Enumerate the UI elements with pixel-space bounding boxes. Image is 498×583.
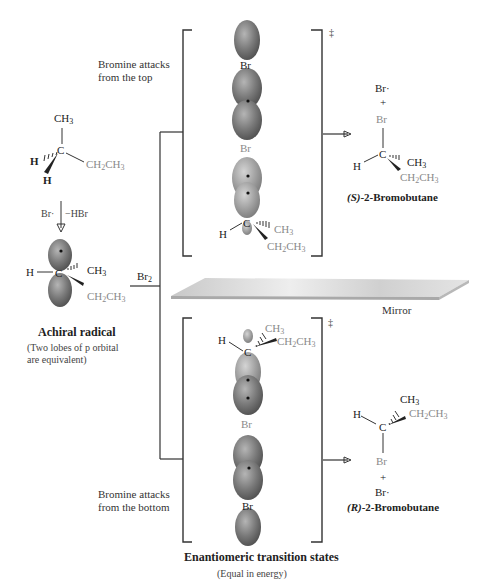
- bottom-product-plus: +: [380, 471, 386, 483]
- bottom-ts-h-label: H: [218, 334, 226, 346]
- bottom-ts-carbon-label: C: [244, 346, 251, 358]
- starting-ethyl-label: CH2CH3: [86, 158, 125, 170]
- top-ts-ethyl-label: CH2CH3: [267, 240, 306, 252]
- bottom-ts-br2-label: Br: [242, 500, 253, 512]
- bottom-product-br-radical: Br·: [375, 486, 390, 498]
- radical-ethyl-label: CH2CH3: [87, 290, 126, 302]
- bottom-attack-label-line1: Bromine attacks: [98, 488, 170, 501]
- enantiomeric-ts-title: Enantiomeric transition states: [184, 551, 339, 563]
- top-product-h-label: H: [353, 160, 361, 172]
- top-ts-h-label: H: [219, 228, 227, 240]
- r-2-bromobutane-name: (R)-2-Bromobutane: [347, 501, 439, 513]
- top-product-plus: +: [380, 96, 386, 108]
- bottom-product-ch3-label: CH3: [400, 393, 419, 405]
- top-attack-label-line2: from the top: [98, 71, 152, 84]
- achiral-radical-title: Achiral radical: [38, 326, 116, 338]
- top-product-ethyl-label: CH2CH3: [400, 171, 439, 183]
- mirror-plane: [171, 278, 469, 297]
- top-ts-ch3-label: CH3: [274, 223, 293, 235]
- top-ts-brackets: [183, 30, 322, 256]
- starting-h1-label: H: [30, 155, 39, 167]
- bottom-ts-ch3-label: CH3: [265, 322, 284, 334]
- bottom-product-carbon-label: C: [379, 421, 386, 433]
- top-ts-br2-label: Br: [240, 142, 251, 154]
- bottom-ts-ethyl-label: CH2CH3: [277, 335, 316, 347]
- starting-ch3-label: CH3: [54, 112, 73, 124]
- bottom-transition-state-symbol: ‡: [328, 317, 333, 329]
- minus-hbr-label: −HBr: [65, 208, 88, 220]
- bottom-attack-label-line2: from the bottom: [98, 501, 170, 514]
- br2-reagent-label: Br2: [137, 270, 152, 282]
- hashed-wedge-icon: [44, 152, 57, 161]
- bottom-product-h-label: H: [353, 408, 361, 420]
- radical-note-line2: are equivalent): [27, 354, 87, 366]
- radical-ch3-label: CH3: [87, 264, 106, 276]
- starting-material-bonds: [62, 128, 84, 162]
- top-ts-br1-label: Br: [240, 59, 251, 71]
- bottom-product-br-label: Br: [376, 455, 387, 467]
- bromine-radical-reagent: Br·: [41, 208, 54, 220]
- radical-note-line1: (Two lobes of p orbital: [27, 342, 119, 354]
- top-product-br-label: Br: [376, 113, 387, 125]
- s-2-bromobutane-name: (S)-2-Bromobutane: [347, 191, 438, 203]
- radical-carbon-label: C: [55, 267, 62, 279]
- top-transition-state-symbol: ‡: [329, 27, 334, 39]
- solid-wedge-icon: [44, 153, 58, 174]
- top-attack-label-line1: Bromine attacks: [98, 58, 170, 71]
- equal-energy-subtitle: (Equal in energy): [217, 568, 287, 580]
- top-product-ch3-label: CH3: [407, 156, 426, 168]
- radical-h-label: H: [26, 266, 34, 278]
- radical-dot-icon: [59, 249, 62, 252]
- starting-h2-label: H: [43, 174, 52, 186]
- top-ts-carbon-label: C: [243, 217, 250, 229]
- bottom-product-ethyl-label: CH2CH3: [409, 407, 448, 419]
- top-product-carbon-label: C: [379, 148, 386, 160]
- mirror-label: Mirror: [382, 304, 411, 317]
- starting-carbon-label: C: [57, 144, 64, 156]
- reaction-diagram-graphics: [0, 0, 498, 583]
- top-product-br-radical: Br·: [375, 82, 390, 94]
- bottom-ts-br1-label: Br: [241, 418, 252, 430]
